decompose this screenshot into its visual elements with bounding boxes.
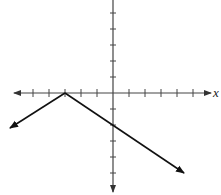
- graph-right-branch: [65, 93, 184, 173]
- y-axis: [110, 0, 116, 192]
- function-graph: [10, 93, 184, 173]
- graph-left-branch: [10, 93, 65, 128]
- x-axis-label: x: [212, 85, 219, 100]
- coordinate-plane: x: [0, 0, 221, 195]
- x-axis: x: [14, 85, 219, 100]
